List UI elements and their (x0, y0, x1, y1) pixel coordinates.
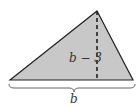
triangle-figure: b − 3 b (0, 0, 138, 107)
base-label: b (70, 92, 78, 106)
triangle (10, 11, 133, 80)
height-label: b − 3 (69, 51, 102, 65)
base-brace (9, 84, 135, 92)
